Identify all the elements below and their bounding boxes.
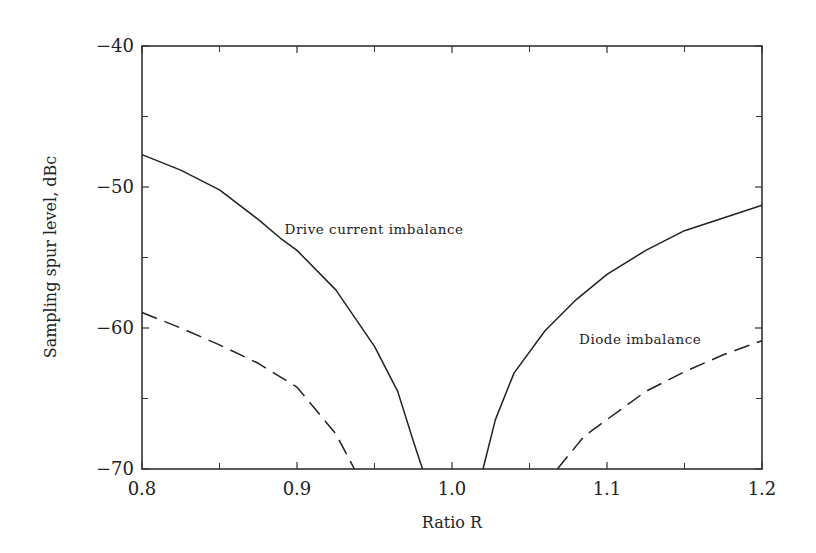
annotations: Drive current imbalanceDiode imbalance <box>285 221 702 347</box>
series-drive-current-imbalance <box>142 155 762 469</box>
x-axis-title: Ratio R <box>422 513 483 532</box>
axis-ticks <box>142 46 762 469</box>
plot-area <box>142 46 762 469</box>
y-tick-label: −60 <box>96 317 134 338</box>
series-line <box>557 341 762 469</box>
plot-frame <box>142 46 762 469</box>
data-series <box>142 155 762 469</box>
x-tick-label: 1.2 <box>748 478 777 499</box>
x-tick-label: 0.8 <box>128 478 157 499</box>
series-line <box>142 313 354 470</box>
y-axis-title: Sampling spur level, dBc <box>41 156 60 359</box>
tick-labels: 0.80.91.01.11.2−40−50−60−70 <box>96 35 776 499</box>
x-tick-label: 0.9 <box>283 478 312 499</box>
y-tick-label: −50 <box>96 176 134 197</box>
y-tick-label: −40 <box>96 35 134 56</box>
x-tick-label: 1.0 <box>438 478 467 499</box>
x-tick-label: 1.1 <box>593 478 622 499</box>
y-tick-label: −70 <box>96 458 134 479</box>
annotation-label: Diode imbalance <box>579 331 701 347</box>
chart: 0.80.91.01.11.2−40−50−60−70 Drive curren… <box>0 0 816 553</box>
annotation-label: Drive current imbalance <box>285 221 464 237</box>
series-line <box>142 155 423 469</box>
